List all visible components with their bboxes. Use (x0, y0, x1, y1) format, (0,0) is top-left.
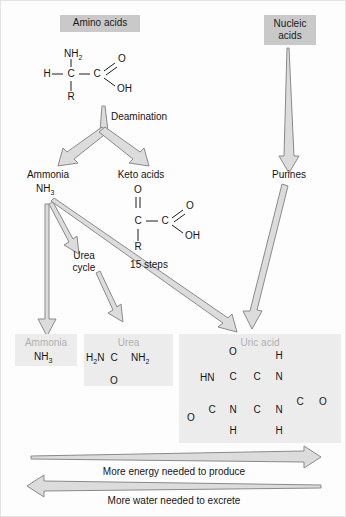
keto-acid-c-alpha: C (131, 216, 145, 226)
arrow-purines-to-uric-acid (243, 184, 288, 329)
arrow-deamination-to-keto-acids (99, 127, 149, 166)
label-fifteen-steps: 15 steps (124, 259, 174, 271)
uric-acid-c-top-left: C (226, 372, 240, 382)
node-ammonia-formula: NH3 (36, 183, 54, 196)
keto-acid-o-top: O (131, 185, 145, 195)
keto-acid-c-carboxyl: C (158, 216, 172, 226)
amino-acid-nh2: NH2 (64, 48, 82, 61)
caption-water-axis: More water needed to excrete (1, 495, 346, 506)
product-uric-acid-box[interactable] (179, 334, 341, 443)
arrow-ammonia-to-ammonia-product (38, 204, 56, 336)
node-nucleic-acids-label-line1: Nucleic (269, 18, 311, 30)
product-ammonia-label: Ammonia (15, 337, 77, 349)
node-amino-acids-label: Amino acids (73, 17, 127, 28)
node-keto-acids[interactable]: Keto acids (108, 169, 174, 181)
urea-carbonyl-o: O (107, 376, 121, 386)
amino-acid-c-alpha: C (64, 69, 78, 79)
product-ammonia-formula: NH3 (34, 351, 52, 364)
uric-acid-c-right: C (293, 397, 307, 407)
uric-acid-h-top-right: H (272, 351, 286, 361)
amino-acid-oh: OH (117, 83, 132, 94)
bond-aa-ccarb-oh (104, 78, 115, 86)
node-nucleic-acids-label-line2: acids (269, 30, 311, 42)
amino-acid-carbonyl-o: O (115, 54, 129, 64)
arrow-water-axis (27, 475, 321, 497)
product-uric-acid-label: Uric acid (179, 337, 341, 349)
arrow-urea-cycle-to-urea (96, 271, 123, 322)
node-urea-cycle-label-line2: cycle (64, 262, 104, 274)
arrow-nucleic-to-purines (279, 48, 299, 173)
uric-acid-c-center-bottom: C (250, 405, 264, 415)
uric-acid-n-bottom-left: N (226, 405, 240, 415)
uric-acid-h-bottom-left: H (226, 426, 240, 436)
node-purines[interactable]: Purines (260, 169, 318, 181)
keto-acid-oh: OH (185, 230, 200, 241)
label-deamination: Deamination (111, 111, 167, 123)
amino-acid-r: R (64, 92, 78, 102)
uric-acid-o-bottom-left: O (184, 413, 198, 423)
uric-acid-n-top-right: N (272, 372, 286, 382)
uric-acid-c-center-top: C (250, 372, 264, 382)
bond-ka-ccarb-oh (172, 225, 183, 233)
uric-acid-c-bottom-left: C (205, 405, 219, 415)
node-ammonia[interactable]: Ammonia (17, 169, 79, 181)
node-urea-cycle[interactable]: Urea cycle (64, 250, 104, 273)
node-nucleic-acids[interactable]: Nucleic acids (264, 15, 316, 45)
node-amino-acids[interactable]: Amino acids (60, 15, 140, 32)
arrow-energy-axis (31, 446, 321, 468)
caption-energy-axis: More energy needed to produce (1, 466, 346, 477)
product-urea-label: Urea (84, 337, 173, 349)
amino-acid-h: H (40, 69, 54, 79)
uric-acid-n-bottom-right: N (272, 405, 286, 415)
urea-right-group: NH2 (131, 352, 149, 365)
node-urea-cycle-label-line1: Urea (64, 250, 104, 262)
amino-acid-c-carboxyl: C (90, 69, 104, 79)
keto-acid-r: R (131, 242, 145, 252)
urea-center-c: C (107, 353, 121, 363)
uric-acid-o-right: O (316, 397, 330, 407)
diagram-canvas: .ar{fill:#dcdcdc;stroke:#8a8a8a;stroke-w… (0, 0, 346, 517)
urea-left-group: H2N (86, 352, 104, 365)
uric-acid-h-bottom-right: H (272, 426, 286, 436)
keto-acid-carbonyl-o: O (183, 201, 197, 211)
uric-acid-o-top: O (226, 347, 240, 357)
uric-acid-hn-left: HN (200, 372, 214, 383)
